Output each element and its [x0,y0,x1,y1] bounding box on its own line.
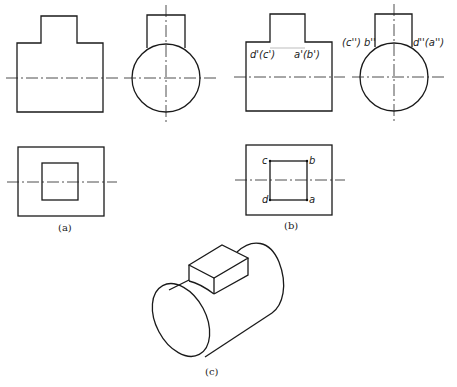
label-c: c [262,155,268,166]
caption-b: (b) [284,220,298,231]
label-c-dprime-b-dprime: (c'') b'' [342,37,376,48]
caption-c: (c) [205,366,219,377]
label-a: a [309,194,315,205]
view-a-front [6,16,118,112]
label-a-prime-b-prime: a'(b') [294,49,320,60]
view-b-top [235,145,345,215]
view-c-isometric [141,243,284,366]
view-b-side [352,4,444,124]
label-d: d [262,194,269,205]
view-b-front [234,14,345,111]
label-b: b [309,155,315,166]
orthographic-projection-diagram: (a) d'(c') a'(b') (c'') b'' d''(a'') c b… [0,0,457,387]
label-d-dprime-a-dprime: d''(a'') [413,37,444,48]
view-a-side [124,5,216,125]
caption-a: (a) [58,222,72,233]
label-d-prime-c-prime: d'(c') [250,49,275,60]
view-a-top [7,147,117,216]
